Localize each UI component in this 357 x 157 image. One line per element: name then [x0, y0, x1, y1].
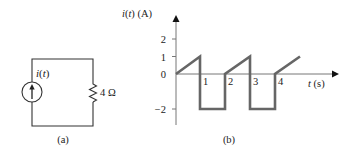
x-ticks: 1 2 3 4: [203, 76, 284, 87]
resistor-label: 4 Ω: [100, 87, 116, 98]
x-axis-label: t (s): [308, 78, 325, 90]
current-source-icon: [22, 82, 42, 102]
figure: i(t) 4 Ω (a) 2 1 0 −2 1 2 3 4 i: [0, 0, 357, 157]
x-tick-2: 2: [228, 76, 233, 87]
x-tick-4: 4: [278, 76, 284, 87]
resistor-icon: [90, 82, 97, 102]
y-tick-0: 0: [161, 69, 166, 80]
current-waveform-graph: 2 1 0 −2 1 2 3 4 i(t) (A) t (s) (b): [122, 8, 339, 146]
y-tick-1: 1: [161, 52, 166, 63]
y-axis-label: i(t) (A): [122, 8, 153, 20]
y-tick-neg2: −2: [155, 104, 166, 115]
y-tick-2: 2: [161, 34, 166, 45]
x-tick-3: 3: [253, 76, 258, 87]
y-ticks: 2 1 0 −2: [155, 34, 176, 115]
source-label: i(t): [36, 67, 50, 80]
x-tick-1: 1: [203, 76, 208, 87]
x-axis-arrow-icon: [332, 71, 339, 78]
circuit-diagram: i(t) 4 Ω (a): [22, 59, 116, 146]
y-axis-arrow-icon: [173, 15, 180, 22]
caption-b: (b): [223, 134, 236, 146]
caption-a: (a): [57, 134, 69, 146]
